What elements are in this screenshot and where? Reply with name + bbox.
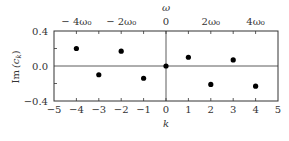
x-tick-label: 0 — [163, 104, 169, 115]
x-tick-label: −1 — [136, 104, 151, 115]
data-point — [74, 46, 79, 51]
data-point — [119, 49, 124, 54]
top-tick-label: − 4ω₀ — [61, 16, 91, 27]
y-tick-label: −0.4 — [24, 96, 48, 107]
x-tick-label: −3 — [91, 104, 106, 115]
data-point — [141, 76, 146, 81]
x-tick-label: 1 — [185, 104, 191, 115]
x-tick-label: −4 — [69, 104, 84, 115]
x-tick-label: −2 — [114, 104, 129, 115]
top-tick-label: 2ω₀ — [202, 16, 221, 27]
top-tick-label: 0 — [163, 16, 169, 27]
y-axis-label: Im(ck) — [10, 50, 23, 83]
data-point — [253, 84, 258, 89]
data-point — [163, 63, 168, 68]
chart: −5−4−3−2−1012345 − 4ω₀− 2ω₀02ω₀4ω₀ −0.40… — [0, 0, 289, 141]
x-tick-label: −5 — [47, 104, 62, 115]
x-tick-label: 2 — [208, 104, 214, 115]
data-point — [186, 55, 191, 60]
top-tick-label: − 2ω₀ — [106, 16, 136, 27]
data-point — [208, 82, 213, 87]
top-tick-label: 4ω₀ — [246, 16, 265, 27]
y-tick-label: 0.0 — [32, 61, 48, 72]
x-axis-label: k — [163, 118, 169, 129]
top-axis-label: ω — [162, 2, 170, 13]
y-tick-label: 0.4 — [32, 26, 48, 37]
data-point — [96, 72, 101, 77]
x-tick-label: 5 — [275, 104, 281, 115]
x-tick-label: 3 — [230, 104, 236, 115]
x-tick-label: 4 — [252, 104, 258, 115]
data-point — [231, 57, 236, 62]
y-axis: −0.40.00.4 — [24, 26, 57, 107]
